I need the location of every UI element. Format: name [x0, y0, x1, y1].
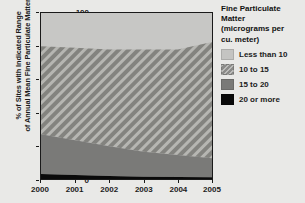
x-tick-label-2005: 2005 [195, 186, 229, 194]
legend-title-line-3: (micrograms per [221, 24, 303, 34]
legend-label-less-than-10: Less than 10 [239, 50, 287, 59]
plot-area [40, 12, 213, 180]
legend-title: Fine Particulate Matter (micrograms per … [221, 4, 303, 45]
x-tick-label-2003: 2003 [127, 186, 161, 194]
legend-label-10-to-15: 10 to 15 [239, 65, 269, 74]
legend-label-20-or-more: 20 or more [239, 95, 280, 104]
legend-label-15-to-20: 15 to 20 [239, 80, 269, 89]
y-axis-title: % of Sites with Indicated Range of Annua… [14, 0, 33, 158]
legend-item-20-or-more[interactable]: 20 or more [221, 94, 303, 106]
legend-item-10-to-15[interactable]: 10 to 15 [221, 64, 303, 76]
x-tick-mark-2002 [109, 180, 110, 183]
stacked-area-svg [41, 13, 212, 179]
y-tick-mark-80 [36, 46, 39, 47]
y-tick-mark-60 [36, 79, 39, 80]
y-tick-mark-40 [36, 113, 39, 114]
chart-page: % of Sites with Indicated Range of Annua… [0, 0, 305, 203]
legend-swatch-15-to-20-icon [221, 79, 234, 90]
legend-title-line-4: cu. meter) [221, 35, 303, 45]
x-tick-label-2000: 2000 [23, 186, 57, 194]
y-tick-mark-0 [36, 180, 39, 181]
legend-title-line-1: Fine Particulate [221, 4, 303, 14]
y-axis-title-line-1: % of Sites with Indicated Range [14, 11, 23, 119]
legend-swatch-less-than-10-icon [221, 49, 234, 60]
x-tick-mark-2005 [212, 180, 213, 183]
legend-title-line-2: Matter [221, 14, 303, 24]
x-tick-mark-2003 [144, 180, 145, 183]
legend-item-15-to-20[interactable]: 15 to 20 [221, 79, 303, 91]
legend-item-less-than-10[interactable]: Less than 10 [221, 49, 303, 61]
x-tick-label-2002: 2002 [92, 186, 126, 194]
legend-swatch-20-or-more-icon [221, 94, 234, 105]
x-tick-label-2004: 2004 [161, 186, 195, 194]
y-tick-mark-20 [36, 146, 39, 147]
x-tick-mark-2004 [178, 180, 179, 183]
x-tick-mark-2001 [75, 180, 76, 183]
plot-frame [40, 12, 213, 180]
y-tick-mark-100 [36, 12, 39, 13]
y-axis-title-line-2: of Annual Mean Fine Particulate Matter [23, 0, 32, 158]
x-tick-label-2001: 2001 [58, 186, 92, 194]
legend-swatch-10-to-15-icon [221, 64, 234, 75]
x-tick-mark-2000 [40, 180, 41, 183]
legend: Fine Particulate Matter (micrograms per … [221, 4, 303, 109]
